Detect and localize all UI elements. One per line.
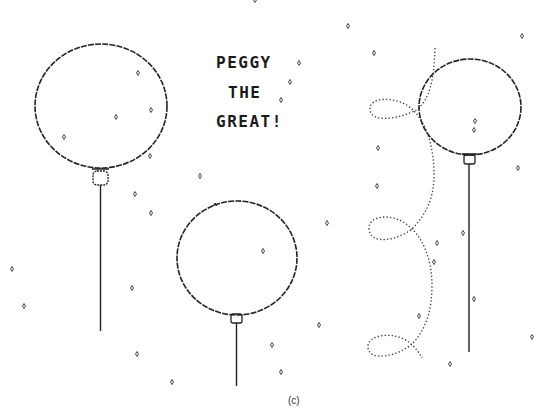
sparkle-icon	[326, 221, 329, 226]
dotted-loop-path	[368, 48, 435, 358]
sparkle-icon	[134, 192, 137, 197]
title-line-great: GREAT!	[216, 114, 283, 130]
sparkle-icon	[63, 135, 66, 140]
sparkle-icon	[436, 241, 439, 246]
sparkle-icon	[473, 128, 476, 133]
sparkle-icon	[150, 211, 153, 216]
sparkle-icon	[433, 260, 436, 265]
sparkle-icon	[150, 108, 153, 113]
sparkle-icon	[376, 184, 379, 189]
sparkle-icon	[171, 380, 174, 385]
sparkle-icon	[318, 323, 321, 328]
balloon-left	[35, 44, 167, 331]
sparkle-icon	[254, 0, 257, 3]
sparkle-icon	[449, 362, 452, 367]
sparkle-icon	[280, 98, 283, 103]
sparkle-icon	[11, 267, 14, 272]
figure-caption: (c)	[288, 395, 300, 407]
balloon-middle	[177, 201, 297, 386]
sparkle-icon	[418, 314, 421, 319]
sparkle-icon	[373, 51, 376, 56]
sparkle-icon	[462, 231, 465, 236]
sparkle-icon	[521, 34, 524, 39]
sparkle-icon	[517, 166, 520, 171]
sparkle-icon	[289, 80, 292, 85]
sparkle-icon	[115, 115, 118, 120]
sparkle-icon	[131, 286, 134, 291]
balloon-right	[419, 59, 521, 352]
sparkle-icon	[531, 335, 534, 340]
sparkle-icon	[199, 174, 202, 179]
title-line-peggy: PEGGY	[216, 55, 272, 71]
sparkle-icon	[298, 61, 301, 66]
sparkles-group	[11, 0, 534, 385]
sparkle-icon	[149, 154, 152, 159]
sparkle-icon	[347, 24, 350, 29]
sparkle-icon	[280, 370, 283, 375]
sparkle-icon	[473, 297, 476, 302]
sparkle-icon	[23, 304, 26, 309]
sparkle-icon	[271, 343, 274, 348]
sparkle-icon	[377, 146, 380, 151]
sparkle-icon	[137, 71, 140, 76]
sparkle-icon	[474, 119, 477, 124]
title-line-the: THE	[228, 85, 261, 101]
sparkle-icon	[262, 249, 265, 254]
sparkle-icon	[136, 352, 139, 357]
